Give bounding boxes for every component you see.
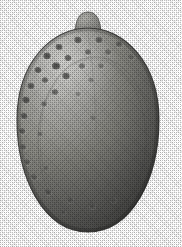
specimen-illustration (0, 0, 182, 247)
figure-canvas: pitted ovoid specimen dorsal view surfac… (0, 0, 182, 247)
